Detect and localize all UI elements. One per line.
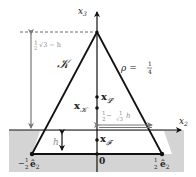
width-label-a-den: 2 (102, 116, 106, 122)
point-x-F (95, 138, 99, 142)
rho-num: 1 (148, 60, 152, 67)
vertex-right-den: 2 (154, 164, 158, 170)
h-label: h (53, 137, 59, 147)
x-K-label: x𝒦 (74, 100, 89, 114)
vertex-right-num: 1 (154, 157, 158, 163)
point-x-K (95, 106, 99, 110)
point-x-L (95, 95, 99, 99)
origin-label: 0 (99, 156, 105, 166)
triangle-diagram: x3 x2 12√3 − h 𝒦 ρ = 1 4 x𝓛 x𝒦 x𝓕 0 1 2 … (0, 0, 196, 177)
width-label-mid: − (106, 112, 112, 120)
vertex-right (160, 152, 164, 156)
width-label-post: h (126, 112, 131, 120)
vertex-apex (95, 30, 98, 33)
x2-axis-label: x2 (179, 116, 188, 127)
vertex-left (30, 152, 34, 156)
vertex-left-num: 1 (25, 157, 29, 163)
width-label-b-den: √3 (116, 116, 124, 122)
x-L-label: x𝓛 (101, 91, 114, 105)
rho-den: 4 (148, 68, 152, 75)
vertex-left-den: 2 (25, 164, 29, 170)
vertex-left-sign: − (18, 159, 25, 168)
x3-axis-label: x3 (78, 6, 87, 17)
region-label: 𝒦 (57, 56, 73, 71)
height-label: 12√3 − h (34, 39, 61, 51)
rho-label: ρ = (120, 63, 137, 73)
